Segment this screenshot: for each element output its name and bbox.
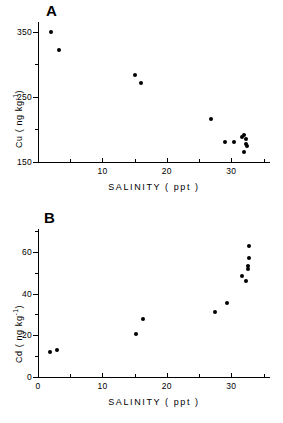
- y-tick-minor: [35, 356, 39, 357]
- y-tick-major: [33, 252, 39, 253]
- data-point: [141, 317, 145, 321]
- y-tick-minor: [35, 314, 39, 315]
- data-point: [225, 301, 229, 305]
- x-tick-minor: [264, 374, 265, 378]
- x-tick-minor: [264, 159, 265, 163]
- y-tick-minor: [35, 129, 39, 130]
- data-point: [55, 348, 59, 352]
- x-tick-minor: [199, 159, 200, 163]
- data-point: [247, 256, 251, 260]
- panel-b-label: B: [44, 209, 55, 226]
- panel-b-plot-area: [38, 229, 270, 377]
- y-tick-minor: [35, 231, 39, 232]
- data-point: [242, 150, 246, 154]
- y-tick-major: [33, 32, 39, 33]
- x-tick-minor: [135, 159, 136, 163]
- panel-a-label: A: [46, 2, 57, 19]
- data-point: [133, 73, 137, 77]
- x-tick-minor: [70, 159, 71, 163]
- y-tick-major: [33, 294, 39, 295]
- panel-a-x-axis: [38, 162, 270, 163]
- figure-container: A SALINITY ( ppt ) Cu ( ng kg-1) 1502503…: [0, 0, 283, 423]
- x-tick-label: 30: [226, 166, 236, 176]
- x-tick-major: [231, 158, 232, 163]
- y-tick-label: 60: [4, 247, 32, 257]
- y-tick-label: 250: [4, 92, 32, 102]
- y-tick-label: 20: [4, 330, 32, 340]
- y-tick-label: 0: [4, 372, 32, 382]
- y-tick-minor: [35, 273, 39, 274]
- panel-a: A SALINITY ( ppt ) Cu ( ng kg-1) 1502503…: [0, 0, 283, 208]
- x-tick-major: [167, 373, 168, 378]
- panel-b-y-axis-title-exponent: -1: [12, 308, 19, 315]
- data-point: [244, 137, 248, 141]
- data-point: [213, 310, 217, 314]
- x-tick-major: [102, 373, 103, 378]
- x-tick-minor: [70, 374, 71, 378]
- y-tick-major: [33, 97, 39, 98]
- y-tick-major: [33, 162, 39, 163]
- panel-a-y-axis-title-main: Cu ( ng kg: [14, 100, 24, 148]
- data-point: [245, 144, 249, 148]
- data-point: [223, 140, 227, 144]
- data-point: [134, 332, 138, 336]
- y-tick-minor: [35, 64, 39, 65]
- y-tick-label: 40: [4, 289, 32, 299]
- data-point: [240, 274, 244, 278]
- y-tick-label: 150: [4, 157, 32, 167]
- data-point: [247, 244, 251, 248]
- panel-a-plot-area: [38, 22, 270, 162]
- x-tick-minor: [199, 374, 200, 378]
- y-tick-label: 350: [4, 27, 32, 37]
- panel-b-x-axis: [38, 377, 270, 378]
- panel-a-x-axis-title: SALINITY ( ppt ): [38, 182, 270, 192]
- x-tick-label: 20: [162, 381, 172, 391]
- panel-b-x-axis-title: SALINITY ( ppt ): [38, 397, 270, 407]
- data-point: [209, 117, 213, 121]
- x-tick-major: [167, 158, 168, 163]
- x-tick-label: 30: [226, 381, 236, 391]
- x-tick-label: 10: [97, 381, 107, 391]
- panel-b: B SALINITY ( ppt ) Cd ( ng kg-1) 0204060…: [0, 205, 283, 423]
- y-tick-major: [33, 335, 39, 336]
- x-tick-major: [38, 373, 39, 378]
- x-tick-major: [231, 373, 232, 378]
- data-point: [48, 350, 52, 354]
- data-point: [232, 140, 236, 144]
- x-tick-label: 20: [162, 166, 172, 176]
- data-point: [57, 48, 61, 52]
- x-tick-major: [102, 158, 103, 163]
- x-tick-label: 10: [97, 166, 107, 176]
- data-point: [49, 30, 53, 34]
- x-tick-minor: [135, 374, 136, 378]
- data-point: [244, 279, 248, 283]
- panel-a-y-axis: [38, 22, 39, 162]
- x-tick-label: 0: [35, 381, 40, 391]
- panel-b-y-axis-title-tail: ): [14, 305, 24, 309]
- data-point: [139, 81, 143, 85]
